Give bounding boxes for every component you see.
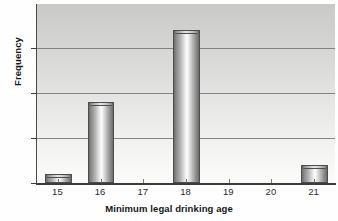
x-tick-label-17: 17 [128, 186, 158, 197]
y-tick-mark-0 [31, 183, 36, 184]
y-axis-title: Frequency [12, 7, 23, 117]
bar-top-ellipse [88, 102, 115, 106]
bar-top-ellipse [173, 30, 200, 34]
x-tick-label-19: 19 [213, 186, 243, 197]
x-tick-label-21: 21 [299, 186, 329, 197]
y-tick-mark-10 [31, 93, 36, 94]
y-tick-mark-15 [31, 48, 36, 49]
x-axis-title: Minimum legal drinking age [0, 203, 338, 214]
histogram-chart: Frequency 051015 15161718192021 Minimum … [0, 0, 338, 221]
bar-top-ellipse [301, 165, 328, 169]
x-tick-label-20: 20 [256, 186, 286, 197]
plot-area [36, 4, 335, 183]
x-tick-label-15: 15 [42, 186, 72, 197]
x-tick-label-18: 18 [171, 186, 201, 197]
x-axis-line [36, 183, 336, 185]
x-tick-label-16: 16 [85, 186, 115, 197]
bar [173, 30, 200, 183]
bar-top-ellipse [45, 174, 72, 178]
y-tick-mark-5 [31, 138, 36, 139]
bar [88, 102, 115, 183]
